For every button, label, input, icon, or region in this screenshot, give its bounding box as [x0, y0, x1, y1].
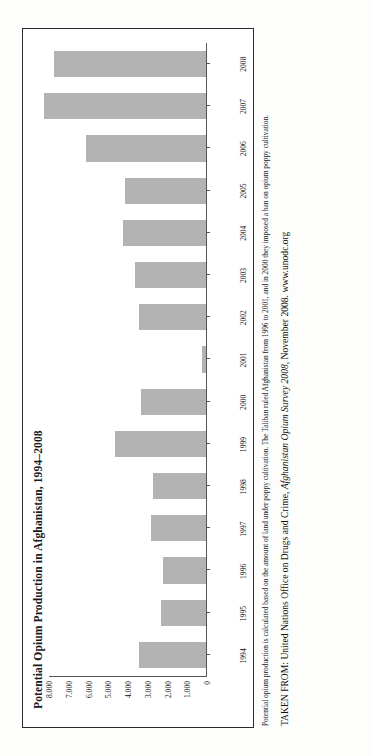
x-axis-tick-label: 2004	[235, 212, 257, 254]
y-axis-tick-label: 5.000	[104, 681, 113, 698]
x-axis-tick	[206, 549, 210, 591]
x-axis-tick-label: 1997	[235, 508, 257, 550]
x-axis-tick	[206, 338, 210, 380]
x-axis-tick-label: 1996	[235, 550, 257, 592]
x-axis-labels: 1994199519961997199819992000200120022003…	[235, 43, 257, 677]
x-axis-tick	[206, 423, 210, 465]
plot-area-wrapper: 8.0007.0006.0005.0004.0003.0002.0001.000…	[49, 43, 235, 711]
x-axis-tick	[206, 296, 210, 338]
y-axis-tick-label: 6.000	[84, 681, 93, 698]
bar	[115, 431, 206, 457]
x-axis-tick-label: 2006	[235, 128, 257, 170]
bar	[139, 642, 206, 668]
bar-slot	[49, 170, 206, 212]
x-axis-tick	[206, 212, 210, 254]
bar-slot	[49, 549, 206, 591]
y-axis-tick-label: 3.000	[143, 681, 152, 698]
bar-series	[49, 43, 206, 676]
bar-slot	[49, 127, 206, 169]
bar-slot	[49, 465, 206, 507]
chart-container: Potential Opium Production in Afghanista…	[22, 28, 254, 728]
bar-slot	[49, 423, 206, 465]
x-axis-tick-label: 1995	[235, 592, 257, 634]
x-axis-tick-label: 2001	[235, 339, 257, 381]
rotated-figure-wrapper: Potential Opium Production in Afghanista…	[22, 28, 352, 728]
source-suffix: November 2008. www.unodc.org	[279, 232, 290, 362]
x-axis-tick-label: 2008	[235, 43, 257, 85]
bar-slot	[49, 592, 206, 634]
x-axis-tick	[206, 465, 210, 507]
y-axis-tick-label: 1.000	[183, 681, 192, 698]
bar	[135, 262, 206, 288]
x-axis-ticks	[206, 43, 210, 676]
x-axis-tick-label: 2007	[235, 85, 257, 127]
chart-source: TAKEN FROM: United Nations Office on Dru…	[279, 30, 291, 726]
bar	[125, 178, 206, 204]
x-axis-tick	[206, 381, 210, 423]
chart-footnote: Potential opium production is calculated…	[261, 36, 270, 726]
x-axis-tick	[206, 254, 210, 296]
bar	[151, 515, 206, 541]
y-axis-tick-label: 4.000	[124, 681, 133, 698]
bar-slot	[49, 338, 206, 380]
x-axis-tick-label: 1998	[235, 466, 257, 508]
x-axis-tick-label: 1994	[235, 635, 257, 677]
bar	[54, 51, 206, 77]
bar-slot	[49, 85, 206, 127]
bar	[139, 304, 206, 330]
plot-area	[49, 43, 207, 677]
x-axis-tick	[206, 507, 210, 549]
x-axis-tick-label: 2003	[235, 254, 257, 296]
y-axis-tick-label: 7.000	[64, 681, 73, 698]
x-axis-tick-label: 2002	[235, 297, 257, 339]
x-axis-tick	[206, 170, 210, 212]
y-axis-tick-label: 2.000	[163, 681, 172, 698]
bar-slot	[49, 212, 206, 254]
bar-slot	[49, 296, 206, 338]
chart-title: Potential Opium Production in Afghanista…	[32, 43, 45, 709]
page-canvas: Potential Opium Production in Afghanista…	[0, 0, 374, 756]
bar-slot	[49, 507, 206, 549]
x-axis-tick	[206, 127, 210, 169]
bar	[123, 220, 206, 246]
bar	[44, 93, 206, 119]
bar-slot	[49, 634, 206, 676]
x-axis-tick	[206, 85, 210, 127]
x-axis-tick	[206, 592, 210, 634]
bar	[163, 557, 206, 583]
y-axis-tick-label: 8.000	[45, 681, 54, 698]
source-prefix: TAKEN FROM: United Nations Office on Dru…	[279, 489, 290, 726]
y-axis-tick-label: 0	[203, 681, 212, 685]
x-axis-tick	[206, 43, 210, 85]
bar	[161, 600, 206, 626]
bar-slot	[49, 43, 206, 85]
figure: Potential Opium Production in Afghanista…	[22, 28, 352, 728]
x-axis-tick-label: 2005	[235, 170, 257, 212]
bar	[153, 473, 206, 499]
x-axis-tick-label: 2000	[235, 381, 257, 423]
x-axis-tick	[206, 634, 210, 676]
bar-slot	[49, 381, 206, 423]
y-axis-labels: 8.0007.0006.0005.0004.0003.0002.0001.000…	[49, 677, 207, 711]
source-title: Afghanistan Opium Survey 2008,	[279, 362, 290, 489]
x-axis-tick-label: 1999	[235, 423, 257, 465]
bar-slot	[49, 254, 206, 296]
bar	[141, 389, 206, 415]
bar	[86, 135, 206, 161]
